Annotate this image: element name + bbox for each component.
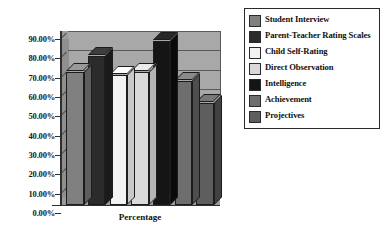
y-axis-tick-label: 60.00% [3, 92, 55, 102]
legend-item[interactable]: Direct Observation [249, 62, 375, 75]
legend-item-label: Achievement [265, 94, 312, 105]
bar-side-face [105, 48, 113, 205]
y-axis-tick-label: 20.00% [3, 169, 55, 179]
y-axis-tick-label: 80.00% [3, 53, 55, 63]
x-axis-line [52, 205, 220, 206]
bar [66, 72, 83, 205]
legend-item-label: Intelligence [265, 78, 306, 89]
bar-side-face [214, 95, 222, 205]
legend-swatch-icon [249, 111, 261, 123]
y-axis-tick-label: 0.00% [3, 208, 55, 218]
legend-item[interactable]: Student Interview [249, 14, 375, 27]
legend-swatch-icon [249, 63, 261, 75]
legend-item-label: Student Interview [265, 14, 329, 25]
x-axis-title: Percentage [60, 212, 220, 222]
legend-item[interactable]: Achievement [249, 94, 375, 107]
y-axis-tick-label: 30.00% [3, 150, 55, 160]
legend-item[interactable]: Projectives [249, 110, 375, 123]
bar-side-face [127, 67, 135, 205]
legend-item-label: Projectives [265, 110, 304, 121]
legend-item-label: Parent-Teacher Rating Scales [265, 30, 370, 41]
bar-side-face [170, 33, 178, 205]
legend-swatch-icon [249, 79, 261, 91]
legend-swatch-icon [249, 31, 261, 43]
legend-item[interactable]: Intelligence [249, 78, 375, 91]
y-axis-tick-label: 10.00% [3, 189, 55, 199]
legend-item[interactable]: Parent-Teacher Rating Scales [249, 30, 375, 43]
y-axis-tick-label: 70.00% [3, 73, 55, 83]
y-axis-tick-label: 40.00% [3, 131, 55, 141]
legend-swatch-icon [249, 15, 261, 27]
legend-swatch-icon [249, 47, 261, 59]
bar-chart: 90.00%80.00%70.00%60.00%50.00%40.00%30.0… [0, 0, 232, 242]
legend-item-label: Child Self-Rating [265, 46, 328, 57]
bar-front-face [66, 72, 83, 205]
bar-side-face [192, 73, 200, 205]
legend-item[interactable]: Child Self-Rating [249, 46, 375, 59]
bar-side-face [149, 64, 157, 205]
gridline [68, 31, 220, 32]
y-axis-line [60, 31, 62, 206]
y-axis-tick-label: 50.00% [3, 111, 55, 121]
y-axis-tick-label: 90.00% [3, 34, 55, 44]
y-axis-tick-labels: 90.00%80.00%70.00%60.00%50.00%40.00%30.0… [0, 0, 55, 242]
legend-item-label: Direct Observation [265, 62, 333, 73]
chart-legend: Student InterviewParent-Teacher Rating S… [244, 8, 380, 129]
bar-side-face [84, 64, 92, 205]
legend-swatch-icon [249, 95, 261, 107]
